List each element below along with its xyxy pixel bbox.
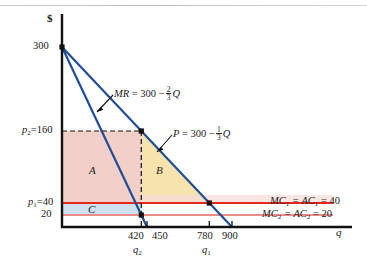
mc1-ac-subscript: 1 [315,200,319,208]
mr-variable: Q [172,88,180,99]
mc1-label: MC1 = AC1 = 40 [270,196,340,207]
x-tick-label-900: 900 [222,231,238,242]
y-tick-p2-subscript: 2 [27,129,31,137]
mr-equation-label: MR = 300 −23Q [114,86,180,103]
mc2-ac-subscript: 2 [307,213,311,221]
demand-fraction-denominator: 3 [216,133,222,142]
x-tick-q2: q2 [133,245,142,256]
mr-fraction: 23 [166,86,172,103]
demand-fraction: 13 [216,126,222,143]
x-tick-label-780: 780 [197,231,213,242]
mc2-symbol: MC [262,208,278,219]
region-b-label: B [156,165,163,176]
marker-p2-q2 [139,128,144,133]
demand-equation-label: P = 300 −13Q [173,126,230,143]
mr-fraction-numerator: 2 [166,86,172,94]
demand-minus: − [209,128,215,139]
y-tick-300: 300 [33,41,49,52]
mc1-value: = 40 [318,195,340,206]
demand-equals: = 300 [182,128,206,139]
mr-leader-arrow [97,95,113,112]
demand-variable: Q [223,128,231,139]
x-tick-label-450: 450 [152,231,168,242]
y-tick-p1: p1=40 [28,197,53,208]
x-tick-q2-subscript: 2 [138,249,142,257]
y-tick-p2: p2=160 [22,125,52,136]
mr-equals: = 300 [132,88,156,99]
mc1-symbol: MC [270,195,286,206]
mr-fraction-denominator: 3 [166,93,172,102]
mc2-ac-symbol: = AC [281,208,307,219]
x-tick-label-420: 420 [128,231,144,242]
figure-container: $ q 300 p2=160 p1=40 20 420 450 780 900 … [0,0,367,266]
y-tick-20: 20 [41,209,52,220]
mc1-ac-symbol: = AC [289,195,315,206]
demand-leader-arrow [157,135,172,152]
region-c-fill [62,203,141,215]
demand-symbol: P [173,128,179,139]
mr-minus: − [159,88,165,99]
x-tick-q1: q1 [202,245,211,256]
x-axis-label: q [336,227,342,238]
mc2-subscript: 2 [278,213,282,221]
y-tick-p2-value: =160 [31,124,53,135]
y-tick-p1-subscript: 1 [33,201,37,209]
marker-q1 [207,200,212,205]
y-tick-p1-value: =40 [37,196,53,207]
region-c-label: C [88,204,95,215]
demand-fraction-numerator: 1 [216,126,222,134]
x-tick-q1-subscript: 1 [207,249,211,257]
mr-symbol: MR [114,88,129,99]
y-axis-label: $ [47,13,53,24]
marker-mr-mc2 [139,212,144,217]
mc1-subscript: 1 [286,200,290,208]
marker-y-intercept-300 [59,44,64,49]
mc2-value: = 20 [310,208,332,219]
region-a-label: A [89,165,96,176]
mc2-label: MC2 = AC2 = 20 [262,209,332,220]
